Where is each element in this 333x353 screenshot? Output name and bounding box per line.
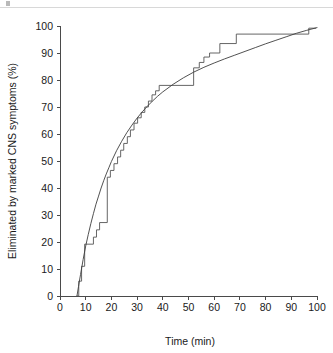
x-axis-tick-label: 30 [131,301,143,313]
x-axis-tick-label: 40 [157,301,169,313]
plot-series-group [76,28,317,296]
x-axis-tick-label: 70 [234,301,246,313]
x-axis-title: Time (min) [165,335,215,347]
y-axis-tick-label: 40 [41,182,53,194]
y-axis-tick-label: 60 [41,128,53,140]
y-axis-tick-label: 90 [41,47,53,59]
x-axis-tick-label: 60 [208,301,220,313]
x-axis-tick-label: 50 [183,301,195,313]
x-axis-group: 0102030405060708090100 [57,296,326,313]
y-axis-tick-label: 20 [41,236,53,248]
step-function-line [76,28,316,296]
y-axis-tick-label: 30 [41,209,53,221]
y-axis-title: Eliminated by marked CNS symptoms (%) [6,63,18,259]
y-axis-tick-label: 50 [41,155,53,167]
y-axis-tick-label: 10 [41,263,53,275]
cumulative-elimination-chart: 0102030405060708090100 01020304050607080… [0,0,333,353]
y-axis-tick-label: 0 [47,290,53,302]
y-axis-tick-label: 70 [41,101,53,113]
y-axis-group: 0102030405060708090100 [35,20,60,302]
x-axis-tick-label: 100 [308,301,326,313]
figure-container: 0102030405060708090100 01020304050607080… [0,0,333,353]
x-axis-tick-label: 80 [260,301,272,313]
x-axis-tick-label: 20 [106,301,118,313]
y-axis-tick-label: 80 [41,74,53,86]
x-axis-tick-label: 90 [285,301,297,313]
x-axis-tick-label: 0 [57,301,63,313]
y-axis-tick-label: 100 [35,20,53,32]
x-axis-tick-label: 10 [80,301,92,313]
